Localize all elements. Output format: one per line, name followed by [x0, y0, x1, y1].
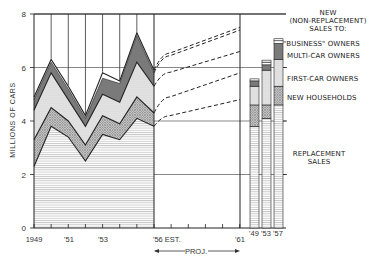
x-tick-56-est: '56 EST.	[153, 235, 181, 244]
bar-label-53: '53	[261, 229, 271, 238]
legend-item-business: "BUSINESS" OWNERS	[283, 40, 360, 48]
x-tick-61: '61	[235, 235, 245, 244]
legend-item-first-car: FIRST-CAR OWNERS	[287, 75, 358, 83]
bar-'57-seg-1	[274, 86, 283, 105]
bar-'49-seg-0	[250, 126, 259, 228]
projection-line-4	[154, 27, 240, 70]
legend: NEW (NON-REPLACEMENT) SALES TO:	[286, 9, 370, 33]
x-tick-1949: 1949	[26, 235, 43, 244]
bar-'49-seg-1	[250, 105, 259, 126]
y-axis-label: MILLIONS OF CARS	[9, 82, 16, 157]
y-tick-2: 2	[22, 171, 27, 180]
legend-header-salesto: SALES TO:	[286, 25, 370, 33]
projection-arrow: PROJ.	[154, 247, 240, 256]
bar-label-49: '49	[249, 229, 259, 238]
bar-'53-seg-2	[262, 70, 271, 105]
bar-cap	[262, 60, 271, 62]
y-tick-4: 4	[22, 117, 27, 126]
bar-'57-seg-4	[274, 41, 283, 44]
bar-'53-seg-0	[262, 118, 271, 228]
bar-'53-seg-1	[262, 105, 271, 118]
bar-'57-seg-0	[274, 105, 283, 228]
projection-line-1	[154, 73, 240, 113]
bar-'57-seg-2	[274, 59, 283, 86]
bar-cap	[274, 39, 283, 41]
y-tick-6: 6	[22, 64, 27, 73]
bar-'49-seg-3	[250, 81, 259, 86]
projection-label: PROJ.	[185, 247, 207, 256]
plot-area	[30, 14, 287, 228]
y-tick-0: 0	[22, 224, 27, 233]
legend-replacement-line1: REPLACEMENT	[286, 150, 352, 158]
legend-item-replacement: REPLACEMENT SALES	[286, 150, 352, 166]
bar-'49-seg-2	[250, 86, 259, 105]
bar-'57-seg-3	[274, 43, 283, 59]
x-tick-53: '53	[98, 235, 108, 244]
legend-item-new-households: NEW HOUSEHOLDS	[287, 94, 356, 102]
bar-'53-seg-3	[262, 65, 271, 70]
projection-line-0	[154, 100, 240, 127]
x-tick-51: '51	[64, 235, 74, 244]
legend-replacement-line2: SALES	[286, 158, 352, 166]
legend-header-nonreplacement: (NON-REPLACEMENT)	[286, 17, 370, 25]
projection-line-3	[154, 30, 240, 73]
y-tick-8: 8	[22, 10, 27, 19]
bar-label-57: '57	[273, 229, 283, 238]
legend-item-multi-car: MULTI-CAR OWNERS	[287, 52, 360, 60]
bar-'53-seg-4	[262, 62, 271, 65]
legend-header-new: NEW	[286, 9, 370, 17]
bar-cap	[250, 79, 259, 81]
